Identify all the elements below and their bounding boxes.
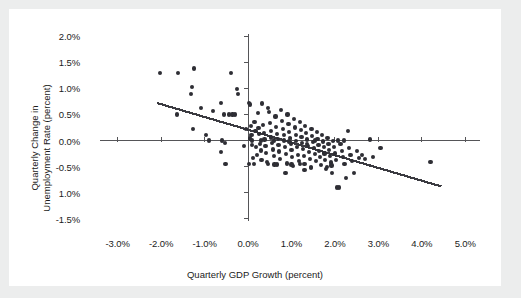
data-point: [302, 168, 306, 172]
data-point: [342, 138, 346, 142]
x-tick-label: -2.0%: [149, 238, 173, 249]
data-point: [259, 138, 263, 142]
data-point: [309, 165, 313, 169]
data-point: [289, 162, 293, 166]
data-point: [272, 154, 276, 158]
data-point: [272, 138, 276, 142]
data-point: [256, 126, 260, 130]
data-point: [175, 112, 179, 116]
data-point: [336, 138, 340, 142]
data-point: [344, 176, 348, 180]
x-tick-label: 3.0%: [368, 238, 389, 249]
data-point: [329, 163, 333, 167]
data-point: [322, 151, 326, 155]
data-point: [283, 171, 287, 175]
y-axis-title: Quarterly Change in Unemployment Rate (p…: [29, 68, 53, 228]
data-point: [285, 161, 289, 165]
data-point: [248, 102, 252, 106]
x-tick-label: 4.0%: [411, 238, 432, 249]
data-point: [299, 135, 303, 139]
data-point: [252, 162, 256, 166]
data-point: [275, 132, 279, 136]
data-point: [309, 127, 313, 131]
data-point: [342, 162, 346, 166]
data-point: [307, 150, 311, 154]
data-point: [282, 138, 286, 142]
data-point: [269, 129, 273, 133]
data-point: [315, 130, 319, 134]
data-point: [302, 162, 306, 166]
data-point: [368, 137, 372, 141]
x-tick-label: 1.0%: [281, 238, 302, 249]
x-tick-label: 2.0%: [324, 238, 345, 249]
data-point: [254, 145, 258, 149]
data-point: [428, 160, 432, 164]
data-point: [333, 151, 337, 155]
y-tick-label: 2.0%: [32, 31, 80, 42]
data-point: [276, 143, 280, 147]
data-point: [262, 131, 266, 135]
data-point: [192, 66, 196, 70]
data-point: [242, 144, 246, 148]
data-point: [285, 112, 289, 116]
data-point: [259, 158, 263, 162]
data-point: [248, 136, 252, 140]
data-point: [321, 139, 325, 143]
data-point: [293, 125, 297, 129]
data-point: [301, 147, 305, 151]
data-point: [326, 142, 330, 146]
figure-container: 2.0%1.5%1.0%0.5%0.0%-0.5%1.0%-1.5%-3.0%-…: [0, 0, 521, 298]
data-point: [266, 162, 270, 166]
data-point: [249, 124, 253, 128]
x-tick-label: 5.0%: [455, 238, 476, 249]
data-point: [262, 137, 266, 141]
data-point: [298, 120, 302, 124]
data-point: [256, 111, 260, 115]
data-point: [299, 128, 303, 132]
data-point: [281, 127, 285, 131]
data-point: [302, 154, 306, 158]
scatter-plot-area: 2.0%1.5%1.0%0.5%0.0%-0.5%1.0%-1.5%-3.0%-…: [9, 9, 501, 286]
data-point: [314, 159, 318, 163]
data-point: [219, 150, 223, 154]
data-point: [337, 185, 341, 189]
data-point: [223, 162, 227, 166]
y-axis-title-line2: Unemployment Rate (percent): [41, 68, 53, 228]
data-point: [199, 106, 203, 110]
x-axis-title: Quarterly GDP Growth (percent): [9, 269, 501, 280]
data-point: [348, 153, 352, 157]
data-point: [296, 153, 300, 157]
data-point: [259, 148, 263, 152]
data-point: [263, 144, 267, 148]
data-point: [267, 110, 271, 114]
data-point: [378, 146, 382, 150]
data-point: [325, 136, 329, 140]
chart-panel: 2.0%1.5%1.0%0.5%0.0%-0.5%1.0%-1.5%-3.0%-…: [9, 9, 501, 286]
data-point: [255, 153, 259, 157]
data-point: [233, 112, 237, 116]
data-point: [294, 133, 298, 137]
data-point: [308, 157, 312, 161]
data-point: [316, 143, 320, 147]
data-point: [305, 137, 309, 141]
data-point: [222, 112, 226, 116]
data-point: [276, 137, 280, 141]
data-point: [289, 148, 293, 152]
x-tick-label: 0.0%: [237, 238, 258, 249]
data-point: [355, 149, 359, 153]
data-point: [338, 142, 342, 146]
data-point: [273, 114, 277, 118]
y-axis-title-line1: Quarterly Change in: [29, 68, 41, 228]
x-tick-label: -3.0%: [106, 238, 130, 249]
data-point: [312, 146, 316, 150]
data-point: [340, 149, 344, 153]
data-point: [271, 147, 275, 151]
data-point: [275, 162, 279, 166]
data-point: [280, 119, 284, 123]
y-tick-label: 1.5%: [32, 57, 80, 68]
data-point: [371, 155, 375, 159]
data-point: [305, 142, 309, 146]
data-point: [283, 145, 287, 149]
x-tick-label: -1.0%: [192, 238, 216, 249]
data-point: [189, 92, 193, 96]
